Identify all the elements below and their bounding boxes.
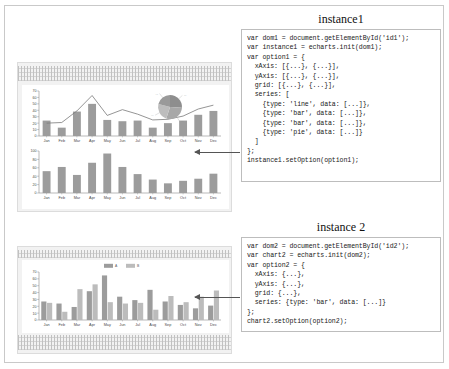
svg-text:Jun: Jun <box>119 139 125 143</box>
svg-text:50: 50 <box>32 284 36 288</box>
svg-text:Mar: Mar <box>74 323 81 327</box>
svg-text:20: 20 <box>32 183 36 187</box>
svg-text:May: May <box>104 196 111 200</box>
svg-text:Dec: Dec <box>210 139 217 143</box>
svg-text:Apr: Apr <box>89 196 96 200</box>
instance2-code-text: var dom2 = document.getElementById('id2'… <box>247 242 435 327</box>
arrow-head-icon <box>194 294 200 300</box>
svg-text:Dec: Dec <box>210 196 217 200</box>
svg-text:...: ... <box>181 119 184 123</box>
instance1-code-block: var dom1 = document.getElementById('id1'… <box>241 29 441 182</box>
svg-text:10: 10 <box>32 128 36 132</box>
svg-text:Jul: Jul <box>135 139 140 143</box>
instance2-chart-panel: AB010203040506070JanFebMarAprMayJunJulAu… <box>17 246 232 354</box>
svg-text:Aug: Aug <box>149 196 156 200</box>
svg-text:Apr: Apr <box>89 139 96 143</box>
svg-text:Aug: Aug <box>149 323 156 327</box>
svg-text:0: 0 <box>34 318 36 322</box>
svg-text:30: 30 <box>32 298 36 302</box>
svg-text:100: 100 <box>30 149 36 153</box>
svg-text:...: ... <box>184 93 187 97</box>
svg-text:Feb: Feb <box>58 196 65 200</box>
instance1-title: instance1 <box>241 12 441 27</box>
svg-text:Nov: Nov <box>195 139 202 143</box>
svg-text:Oct: Oct <box>180 323 187 327</box>
instance2-title: instance 2 <box>241 220 441 235</box>
svg-text:30: 30 <box>32 115 36 119</box>
svg-text:Jun: Jun <box>119 196 125 200</box>
svg-text:Jan: Jan <box>44 323 50 327</box>
svg-text:Jul: Jul <box>135 196 140 200</box>
texture-band-top-2 <box>18 250 231 258</box>
svg-text:20: 20 <box>32 122 36 126</box>
svg-text:Nov: Nov <box>195 323 202 327</box>
svg-text:...: ... <box>156 92 159 96</box>
svg-text:40: 40 <box>32 175 36 179</box>
svg-text:May: May <box>104 139 111 143</box>
svg-text:60: 60 <box>32 96 36 100</box>
svg-text:Oct: Oct <box>180 196 187 200</box>
svg-text:80: 80 <box>32 158 36 162</box>
svg-text:A: A <box>115 264 118 268</box>
svg-text:Jun: Jun <box>119 323 125 327</box>
svg-text:Jan: Jan <box>44 139 50 143</box>
svg-text:60: 60 <box>32 277 36 281</box>
svg-text:Mar: Mar <box>74 139 81 143</box>
svg-text:70: 70 <box>32 270 36 274</box>
instance1-chart-canvas: 010203040506070JanFebMarAprMayJunJulAugS… <box>22 85 229 209</box>
svg-text:Jan: Jan <box>44 196 50 200</box>
svg-text:40: 40 <box>32 291 36 295</box>
svg-text:Sep: Sep <box>165 323 172 327</box>
svg-text:May: May <box>104 323 111 327</box>
svg-text:Oct: Oct <box>180 139 187 143</box>
svg-text:Feb: Feb <box>58 323 65 327</box>
svg-text:Sep: Sep <box>165 196 172 200</box>
svg-text:Dec: Dec <box>210 323 217 327</box>
arrow-to-instance1-chart <box>195 152 240 153</box>
instance1-code-text: var dom1 = document.getElementById('id1'… <box>247 34 435 166</box>
svg-text:20: 20 <box>32 305 36 309</box>
svg-text:40: 40 <box>32 109 36 113</box>
svg-text:Feb: Feb <box>58 139 65 143</box>
svg-text:Nov: Nov <box>195 196 202 200</box>
arrow-to-instance2-chart <box>195 297 240 298</box>
instance2-code-block: var dom2 = document.getElementById('id2'… <box>241 237 441 332</box>
svg-text:Mar: Mar <box>74 196 81 200</box>
svg-text:70: 70 <box>32 89 36 93</box>
instance1-chart-svg: 010203040506070JanFebMarAprMayJunJulAugS… <box>22 85 229 209</box>
svg-text:Aug: Aug <box>149 139 156 143</box>
svg-text:...: ... <box>151 113 154 117</box>
svg-text:60: 60 <box>32 166 36 170</box>
svg-text:0: 0 <box>34 134 36 138</box>
svg-text:Sep: Sep <box>165 139 172 143</box>
texture-band-bottom-2 <box>18 335 231 350</box>
svg-text:Apr: Apr <box>89 323 96 327</box>
diagram-frame: 010203040506070JanFebMarAprMayJunJulAugS… <box>4 5 444 363</box>
svg-text:B: B <box>137 264 140 268</box>
instance1-chart-panel: 010203040506070JanFebMarAprMayJunJulAugS… <box>17 62 232 212</box>
svg-text:50: 50 <box>32 102 36 106</box>
svg-text:10: 10 <box>32 312 36 316</box>
arrow-head-icon <box>194 149 200 155</box>
svg-text:Jul: Jul <box>135 323 140 327</box>
svg-text:0: 0 <box>34 191 36 195</box>
texture-band-top <box>18 66 231 81</box>
